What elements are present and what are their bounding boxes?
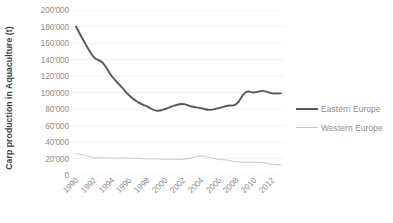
y-axis-tick-label: 80'000	[45, 105, 69, 114]
plot-svg	[72, 10, 285, 175]
x-axis-tick-label: 2002	[168, 176, 187, 195]
series-lines	[76, 27, 281, 166]
x-axis-tick-label: 2006	[204, 176, 223, 195]
y-axis-title: Carp production in Aquaculture (t)	[0, 0, 18, 195]
legend-item-western-europe[interactable]: Western Europe	[296, 118, 391, 137]
y-axis-tick-label: 0	[65, 171, 69, 180]
y-axis-tick-label: 20'000	[45, 154, 69, 163]
legend-line-icon-eastern	[296, 108, 318, 110]
y-axis-tick-label: 60'000	[45, 121, 69, 130]
x-axis-tick-label: 2000	[151, 176, 170, 195]
legend-label-western: Western Europe	[321, 123, 383, 133]
y-axis-tick-label: 180'000	[41, 22, 69, 31]
y-axis-tick-label: 40'000	[45, 138, 69, 147]
x-axis-tick-label: 1996	[115, 176, 134, 195]
y-axis-tick-label: 120'000	[41, 72, 69, 81]
x-axis-tick-label: 2004	[186, 176, 205, 195]
x-axis-tick-label: 1992	[79, 176, 98, 195]
legend-label-eastern: Eastern Europe	[321, 104, 381, 114]
x-axis-tick-labels: 1990199219941996199820002002200420062008…	[72, 176, 285, 223]
line-chart: Carp production in Aquaculture (t) 020'0…	[0, 0, 393, 223]
x-axis-tick-label: 1994	[97, 176, 116, 195]
legend-line-icon-western	[296, 127, 318, 128]
legend: Eastern Europe Western Europe	[296, 99, 391, 137]
plot-area	[72, 10, 285, 175]
series-line	[76, 27, 281, 111]
y-axis-tick-labels: 020'00040'00060'00080'000100'000120'0001…	[18, 0, 72, 200]
x-axis-tick-label: 2008	[222, 176, 241, 195]
y-axis-tick-label: 140'000	[41, 55, 69, 64]
x-axis-tick-label: 1998	[133, 176, 152, 195]
x-axis-tick-label: 2010	[240, 176, 259, 195]
legend-item-eastern-europe[interactable]: Eastern Europe	[296, 99, 391, 118]
series-line	[76, 154, 281, 166]
y-axis-title-label: Carp production in Aquaculture (t)	[4, 26, 14, 169]
y-axis-tick-label: 160'000	[41, 39, 69, 48]
y-axis-tick-label: 100'000	[41, 88, 69, 97]
y-axis-tick-label: 200'000	[41, 6, 69, 15]
x-axis-tick-label: 2012	[257, 176, 276, 195]
